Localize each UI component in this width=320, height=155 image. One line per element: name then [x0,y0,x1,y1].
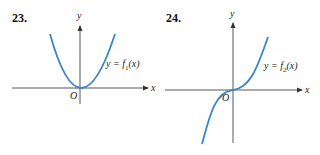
problem-number-24: 24. [166,11,181,26]
figures-canvas [0,0,320,155]
curve-label-f2: y = f2(x) [264,60,298,74]
y-axis-label: y [77,10,81,21]
x-axis-label: x [151,82,155,93]
y-axis-label: y [230,8,234,19]
graph-24 [165,23,302,144]
curve-label-f1: y = f1(x) [106,58,140,72]
origin-label: O [222,92,229,103]
problem-number-23: 23. [12,11,27,26]
origin-label: O [70,90,77,101]
x-axis-label: x [305,84,309,95]
cubic-curve [202,37,268,144]
